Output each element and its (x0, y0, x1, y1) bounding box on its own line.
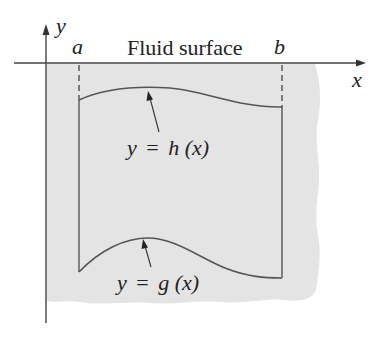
x-axis-label: x (351, 67, 362, 92)
x-axis-arrow-icon (356, 60, 366, 67)
bound-a-label: a (72, 34, 83, 59)
y-axis-label: y (54, 13, 66, 38)
y-axis-arrow-icon (43, 24, 50, 35)
bound-b-label: b (274, 34, 285, 59)
fluid-plate-diagram: y x a b Fluid surface y = h (x) y = g (x… (0, 0, 392, 340)
fluid-surface-label: Fluid surface (127, 35, 242, 60)
fluid-region (47, 64, 320, 304)
